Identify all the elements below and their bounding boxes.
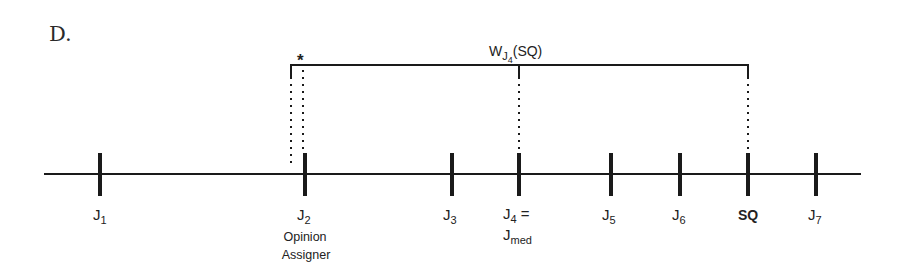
label-j6: J6	[672, 206, 686, 226]
label-j5: J5	[602, 206, 616, 226]
label-jmed: Jmed	[503, 226, 532, 246]
winset-bracket	[291, 65, 748, 79]
asterisk-marker: *	[297, 51, 304, 70]
label-sq: SQ	[738, 207, 758, 223]
label-opinion-assigner-line1: Opinion	[283, 230, 326, 244]
spatial-model-diagram: * WJ4(SQ) J1 J2 Opinion Assigner J3 J4 =…	[0, 0, 907, 276]
label-j1: J1	[93, 206, 107, 226]
label-j3: J3	[443, 206, 457, 226]
label-j7: J7	[808, 206, 822, 226]
label-j2: J2	[297, 206, 311, 226]
label-j4: J4 =	[503, 205, 530, 225]
winset-label: WJ4(SQ)	[489, 43, 542, 65]
dotted-guides	[291, 70, 748, 166]
label-opinion-assigner-line2: Assigner	[282, 248, 331, 262]
